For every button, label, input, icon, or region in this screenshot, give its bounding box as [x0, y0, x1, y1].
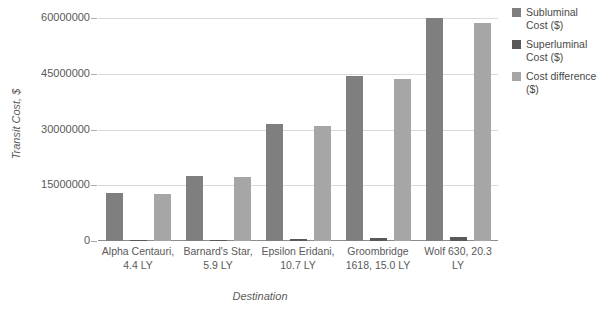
y-axis-tickmark — [91, 185, 97, 186]
bar — [314, 126, 331, 241]
x-axis-category-label: Alpha Centauri, 4.4 LY — [98, 245, 178, 272]
bar — [370, 238, 387, 241]
bar-groups — [98, 18, 498, 241]
legend-item-label: Superluminal Cost ($) — [526, 38, 598, 64]
y-axis-tickmark — [91, 241, 97, 242]
legend-swatch-icon — [512, 8, 521, 17]
legend-item[interactable]: Superluminal Cost ($) — [512, 38, 598, 64]
bar — [450, 237, 467, 241]
bar — [154, 194, 171, 241]
y-axis-tick-label: 15000000 — [2, 178, 90, 190]
bar — [394, 79, 411, 241]
y-axis-tick-label: 0 — [2, 234, 90, 246]
bar — [186, 176, 203, 241]
y-axis-tickmark — [91, 130, 97, 131]
bar — [346, 76, 363, 241]
y-axis-tickmark — [91, 74, 97, 75]
bar-group — [98, 18, 178, 241]
legend-swatch-icon — [512, 40, 521, 49]
y-axis-tick-label: 45000000 — [2, 67, 90, 79]
bar-group — [258, 18, 338, 241]
legend-item-label: Cost difference ($) — [526, 70, 598, 96]
bar — [130, 240, 147, 241]
bar-group — [418, 18, 498, 241]
legend-item-label: Subluminal Cost ($) — [526, 6, 598, 32]
x-axis-category-labels: Alpha Centauri, 4.4 LYBarnard's Star, 5.… — [98, 245, 498, 272]
bar-chart: Transit Cost, $ 600000004500000030000000… — [0, 0, 602, 311]
x-axis-category-label: Groombridge 1618, 15.0 LY — [338, 245, 418, 272]
legend-item[interactable]: Cost difference ($) — [512, 70, 598, 96]
bar — [210, 240, 227, 241]
y-axis-tick-label: 60000000 — [2, 11, 90, 23]
bar-group — [338, 18, 418, 241]
bar — [234, 177, 251, 241]
bar — [426, 18, 443, 241]
legend-item[interactable]: Subluminal Cost ($) — [512, 6, 598, 32]
legend-swatch-icon — [512, 72, 521, 81]
bar — [266, 124, 283, 241]
bar — [290, 239, 307, 241]
x-axis-category-label: Epsilon Eridani, 10.7 LY — [258, 245, 338, 272]
x-axis-title: Destination — [0, 290, 520, 302]
chart-legend: Subluminal Cost ($)Superluminal Cost ($)… — [512, 6, 598, 102]
x-axis-category-label: Barnard's Star, 5.9 LY — [178, 245, 258, 272]
y-axis-tick-label: 30000000 — [2, 123, 90, 135]
plot-area — [98, 18, 498, 241]
bar — [474, 23, 491, 241]
x-axis-category-label: Wolf 630, 20.3 LY — [418, 245, 498, 272]
bar-group — [178, 18, 258, 241]
y-axis-tickmark — [91, 18, 97, 19]
bar — [106, 193, 123, 241]
